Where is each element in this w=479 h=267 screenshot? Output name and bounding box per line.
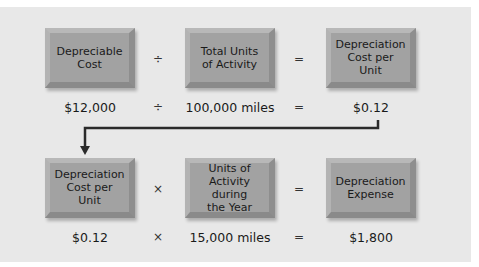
value-depreciable-cost: $12,000 — [35, 100, 145, 115]
equals-operator: = — [289, 52, 309, 66]
equals-operator: = — [289, 100, 309, 114]
divide-operator: ÷ — [148, 100, 168, 114]
multiply-operator: × — [148, 182, 168, 196]
value-units-during-year: 15,000 miles — [175, 230, 285, 245]
value-cost-per-unit: $0.12 — [316, 100, 426, 115]
divide-operator: ÷ — [148, 52, 168, 66]
value-total-units: 100,000 miles — [175, 100, 285, 115]
box-depreciation-cost-per-unit: Depreciation Cost per Unit — [45, 158, 135, 218]
box-depreciable-cost: Depreciable Cost — [45, 28, 135, 88]
box-units-of-activity-during-year: Units of Activity during the Year — [185, 158, 275, 218]
value-depreciation-expense: $1,800 — [316, 230, 426, 245]
box-depreciation-cost-per-unit: Depreciation Cost per Unit — [326, 28, 416, 88]
value-cost-per-unit: $0.12 — [35, 230, 145, 245]
equals-operator: = — [289, 230, 309, 244]
multiply-operator: × — [148, 230, 168, 244]
box-depreciation-expense: Depreciation Expense — [326, 158, 416, 218]
equals-operator: = — [289, 182, 309, 196]
box-total-units-of-activity: Total Units of Activity — [185, 28, 275, 88]
